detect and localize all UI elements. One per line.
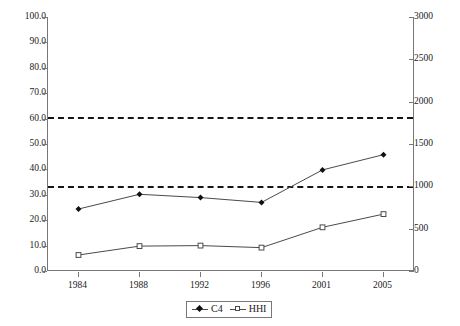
data-point-marker-square <box>198 243 203 248</box>
data-point-marker-square <box>320 225 325 230</box>
y-left-tick-label: 90.0 <box>12 36 46 46</box>
legend-item-c4: C4 <box>192 303 223 315</box>
legend-label-c4: C4 <box>211 303 223 315</box>
y-axis-left: 0.010.020.030.040.050.060.070.080.090.01… <box>0 0 46 326</box>
y-left-tick-label: 10.0 <box>12 240 46 250</box>
x-tick <box>383 272 384 277</box>
y-left-tick <box>42 93 47 94</box>
y-left-tick <box>42 119 47 120</box>
plot-area <box>47 17 413 271</box>
y-left-tick-label: 70.0 <box>12 87 46 97</box>
data-point-marker-diamond <box>198 195 204 201</box>
y-right-tick <box>409 144 414 145</box>
data-point-marker-diamond <box>320 167 326 173</box>
series-line-hhi <box>79 214 384 255</box>
y-right-tick-label: 1000 <box>414 180 448 190</box>
y-left-tick <box>42 17 47 18</box>
y-right-tick <box>409 229 414 230</box>
y-left-tick <box>42 271 47 272</box>
data-point-marker-square <box>76 253 81 258</box>
y-left-tick-label: 60.0 <box>12 113 46 123</box>
y-left-tick-label: 20.0 <box>12 214 46 224</box>
y-right-tick-label: 2500 <box>414 53 448 63</box>
line-marker-diamond-icon <box>192 304 208 314</box>
y-left-tick-label: 40.0 <box>12 163 46 173</box>
data-point-marker-square <box>259 245 264 250</box>
y-right-tick-label: 2000 <box>414 96 448 106</box>
y-right-tick-label: 0 <box>414 265 448 275</box>
y-left-tick <box>42 169 47 170</box>
legend-label-hhi: HHI <box>249 303 267 315</box>
y-right-tick-label: 3000 <box>414 11 448 21</box>
x-tick-label: 2005 <box>360 280 406 290</box>
data-point-marker-square <box>381 212 386 217</box>
y-left-tick <box>42 195 47 196</box>
y-left-tick <box>42 220 47 221</box>
x-tick <box>261 272 262 277</box>
y-left-tick-label: 80.0 <box>12 62 46 72</box>
data-point-marker-diamond <box>381 152 387 158</box>
y-right-tick <box>409 271 414 272</box>
data-point-marker-square <box>137 244 142 249</box>
data-point-marker-diamond <box>137 191 143 197</box>
x-tick <box>139 272 140 277</box>
chart-legend: C4 HHI <box>186 301 272 318</box>
y-left-tick-label: 0.0 <box>12 265 46 275</box>
line-marker-square-icon <box>230 304 246 314</box>
y-left-tick-label: 50.0 <box>12 138 46 148</box>
x-tick-label: 1984 <box>55 280 101 290</box>
chart-container: 0.010.020.030.040.050.060.070.080.090.01… <box>0 0 460 326</box>
data-point-marker-diamond <box>76 206 82 212</box>
x-tick-label: 2001 <box>299 280 345 290</box>
y-right-tick-label: 1500 <box>414 138 448 148</box>
x-tick-label: 1992 <box>177 280 223 290</box>
y-left-tick-label: 100.0 <box>12 11 46 21</box>
y-left-tick <box>42 42 47 43</box>
x-tick-label: 1996 <box>238 280 284 290</box>
y-right-tick <box>409 59 414 60</box>
x-tick <box>78 272 79 277</box>
y-right-tick-label: 500 <box>414 223 448 233</box>
legend-item-hhi: HHI <box>230 303 267 315</box>
y-left-tick <box>42 144 47 145</box>
x-tick <box>200 272 201 277</box>
y-axis-right: 050010001500200025003000 <box>414 0 460 326</box>
y-left-tick <box>42 68 47 69</box>
data-point-marker-diamond <box>259 199 265 205</box>
series-layer <box>48 17 414 271</box>
y-right-tick <box>409 186 414 187</box>
x-tick-label: 1988 <box>116 280 162 290</box>
y-left-tick-label: 30.0 <box>12 189 46 199</box>
y-left-tick <box>42 246 47 247</box>
y-right-tick <box>409 102 414 103</box>
series-line-c4 <box>79 155 384 209</box>
y-right-tick <box>409 17 414 18</box>
x-tick <box>322 272 323 277</box>
